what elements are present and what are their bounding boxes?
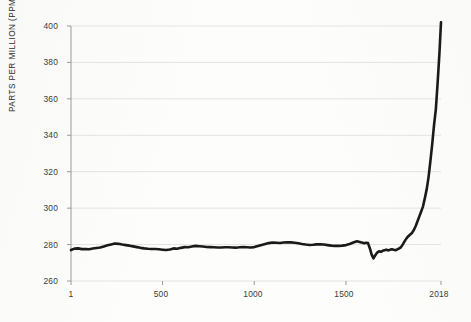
co2-data-line bbox=[71, 22, 441, 258]
co2-line-chart: PARTS PER MILLION (PPM) 400 380 360 340 … bbox=[0, 0, 471, 322]
gridlines bbox=[71, 26, 441, 281]
plot-area bbox=[0, 0, 471, 322]
